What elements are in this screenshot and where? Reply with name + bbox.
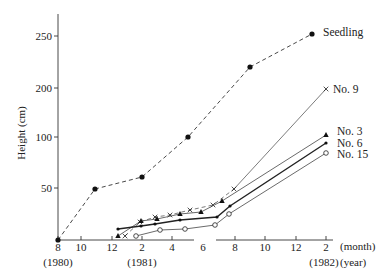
marker-filled-circle (92, 186, 97, 191)
x-axis-label-month: (month) (340, 240, 376, 253)
x-tick-label: 2 (323, 241, 329, 253)
marker-small-circle (153, 222, 156, 225)
marker-small-circle (324, 141, 327, 144)
y-axis-label: Height (cm) (15, 106, 28, 160)
marker-small-circle (139, 224, 142, 227)
marker-triangle (219, 198, 224, 203)
marker-small-circle (116, 227, 119, 230)
y-axis-ticks: 25020010050 (36, 30, 59, 194)
marker-open-circle (324, 151, 329, 156)
x-tick-year-label: (1980) (43, 256, 73, 269)
x-tick-label: 10 (260, 241, 272, 253)
series-label: Seedling (323, 26, 363, 39)
marker-small-circle (215, 215, 218, 218)
x-tick-label: 4 (169, 241, 175, 253)
marker-filled-circle (139, 174, 144, 179)
series-label: No. 3 (337, 125, 363, 137)
marker-triangle (323, 132, 328, 137)
marker-filled-circle (185, 134, 190, 139)
series-seedling (55, 31, 314, 242)
series-label: No. 15 (337, 148, 369, 160)
series-no-3 (115, 132, 328, 238)
series-no-6 (116, 141, 327, 230)
y-tick-label: 50 (41, 182, 53, 194)
x-tick-label: 2 (139, 241, 145, 253)
series-line (136, 153, 326, 236)
x-tick-label: 8 (232, 241, 238, 253)
marker-small-circle (178, 218, 181, 221)
marker-open-circle (183, 227, 188, 232)
marker-open-circle (134, 234, 139, 239)
series-label: No. 9 (333, 83, 359, 95)
marker-triangle (115, 233, 120, 238)
x-tick-year-label: (1982) (309, 256, 339, 269)
marker-open-circle (227, 212, 232, 217)
x-axis-label-year: (year) (340, 256, 367, 269)
series-labels: SeedlingNo. 9No. 3No. 6No. 15 (323, 26, 369, 160)
x-tick-label: 8 (55, 241, 61, 253)
growth-chart: 25020010050 8(1980)10122(1981)46810122(1… (0, 0, 385, 277)
series-line (118, 143, 326, 229)
marker-triangle (198, 209, 203, 214)
y-tick-label: 250 (36, 30, 53, 42)
series-line (118, 135, 326, 236)
marker-small-circle (228, 204, 231, 207)
marker-open-circle (158, 228, 163, 233)
x-tick-year-label: (1981) (127, 256, 157, 269)
marker-open-circle (213, 223, 218, 228)
marker-filled-circle (309, 31, 314, 36)
marker-filled-circle (55, 237, 60, 242)
marker-filled-circle (247, 64, 252, 69)
y-tick-label: 100 (36, 131, 53, 143)
x-tick-label: 12 (107, 241, 118, 253)
x-axis-ticks: 8(1980)10122(1981)46810122(1982) (43, 236, 339, 269)
x-tick-label: 12 (291, 241, 302, 253)
x-tick-label: 6 (200, 241, 206, 253)
series-line (58, 34, 312, 240)
x-tick-label: 10 (76, 241, 88, 253)
axes (58, 14, 333, 240)
series-lines (55, 31, 328, 242)
series-no-15 (134, 151, 329, 239)
y-tick-label: 200 (36, 82, 53, 94)
